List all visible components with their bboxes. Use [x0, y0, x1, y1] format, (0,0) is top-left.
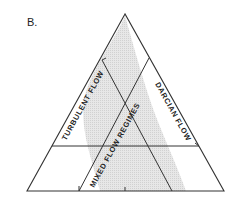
- ternary-diagram: TURBULENT FLOW MIXED FLOW REGIMES DARCIA…: [0, 0, 238, 201]
